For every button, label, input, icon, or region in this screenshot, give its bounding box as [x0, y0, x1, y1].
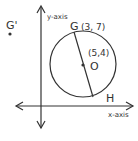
point-g-prime-label: G' [6, 19, 18, 32]
geometry-diagram: y-axis x-axis G (3, 7) (5,4) O H G' [0, 0, 138, 141]
point-g-label: G [70, 20, 79, 33]
center-o-label: O [90, 60, 99, 73]
point-h-label: H [106, 92, 114, 105]
point-g-prime [8, 32, 11, 35]
x-axis [16, 102, 133, 110]
point-g-coords: (3, 7) [81, 22, 105, 32]
y-axis [37, 6, 45, 128]
x-axis-label: x-axis [108, 111, 129, 119]
center-point-o [81, 63, 84, 66]
y-axis-label: y-axis [47, 13, 68, 21]
center-coords-label: (5,4) [88, 48, 109, 58]
